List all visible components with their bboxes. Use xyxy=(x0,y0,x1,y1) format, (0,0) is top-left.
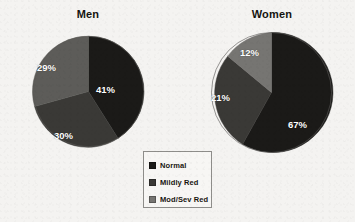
legend-label-mildly-red: Mildly Red xyxy=(160,178,199,187)
legend-label-mod-sev-red: Mod/Sev Red xyxy=(160,195,208,204)
pie-men-label-mildly-red: 30% xyxy=(54,130,73,141)
pie-men-svg xyxy=(31,34,146,149)
pie-chart-men xyxy=(31,34,146,149)
pie-women-label-normal: 67% xyxy=(288,119,307,130)
legend-item-normal[interactable]: Normal xyxy=(149,157,211,173)
pie-men-label-mod-sev-red: 29% xyxy=(37,62,56,73)
pie-chart-figure: Men 41% 30% 29% Women 67% 21% 12% xyxy=(0,0,355,222)
legend-swatch-normal xyxy=(149,162,156,169)
legend-swatch-mod-sev-red xyxy=(149,196,156,203)
legend-swatch-mildly-red xyxy=(149,179,156,186)
pie-women-label-mod-sev-red: 12% xyxy=(240,47,259,58)
legend-item-mildly-red[interactable]: Mildly Red xyxy=(149,174,211,190)
pie-women-label-mildly-red: 21% xyxy=(211,92,230,103)
legend-item-mod-sev-red[interactable]: Mod/Sev Red xyxy=(149,191,211,207)
legend-label-normal: Normal xyxy=(160,161,186,170)
chart-title-women: Women xyxy=(240,8,304,20)
category-legend: Normal Mildly Red Mod/Sev Red xyxy=(143,151,212,208)
pie-men-label-normal: 41% xyxy=(96,84,115,95)
chart-title-men: Men xyxy=(58,8,118,20)
